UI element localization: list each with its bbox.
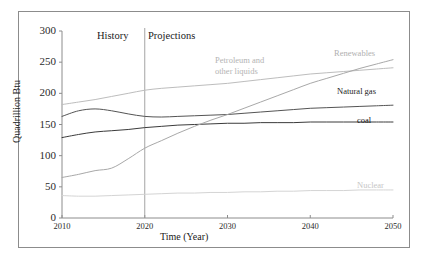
y-axis-title: Quadrillion Btu bbox=[11, 72, 22, 152]
y-tick-label: 300 bbox=[30, 25, 56, 36]
chart-figure: 050100150200250300 20102020203020402050 … bbox=[0, 0, 427, 259]
x-tick-label: 2050 bbox=[376, 222, 410, 231]
series-label-coal: coal bbox=[357, 115, 371, 125]
y-tick-label: 100 bbox=[30, 150, 56, 161]
x-tick-label: 2030 bbox=[211, 222, 245, 231]
x-tick-label: 2010 bbox=[45, 222, 79, 231]
series-lines bbox=[62, 60, 393, 197]
y-tick-label: 150 bbox=[30, 119, 56, 130]
series-line-nuclear bbox=[62, 190, 393, 196]
series-line-coal bbox=[62, 122, 393, 138]
history-annotation: History bbox=[97, 31, 129, 42]
series-label-renewables: Renewables bbox=[334, 48, 375, 58]
x-tick-label: 2040 bbox=[293, 222, 327, 231]
series-label-natural-gas: Natural gas bbox=[337, 86, 376, 96]
y-tick-label: 200 bbox=[30, 87, 56, 98]
series-label-petroleum-line2: other liquids bbox=[215, 66, 258, 76]
series-label-petroleum-line1: Petroleum and bbox=[215, 55, 264, 65]
series-label-petroleum: Petroleum and other liquids bbox=[215, 55, 264, 77]
projections-annotation: Projections bbox=[148, 31, 195, 42]
x-tick-label: 2020 bbox=[128, 222, 162, 231]
series-line-renewables bbox=[62, 60, 393, 178]
y-tick-label: 50 bbox=[30, 181, 56, 192]
series-label-nuclear: Nuclear bbox=[357, 180, 384, 190]
series-line-natural-gas bbox=[62, 105, 393, 117]
y-tick-label: 250 bbox=[30, 56, 56, 67]
x-axis-title: Time (Year) bbox=[160, 231, 208, 242]
